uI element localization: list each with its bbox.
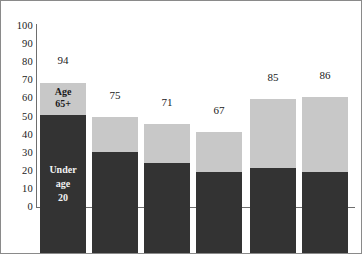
bar-segment-under-age-20-2010 xyxy=(196,172,242,253)
bar-group-2010: 67 xyxy=(196,46,242,253)
bar-segment-under-age-20-2065 xyxy=(302,172,348,253)
bar-segment-age-65-plus-1995 xyxy=(144,124,190,163)
y-tick-label: 70 xyxy=(3,75,33,85)
annotation-under-age-20-line2: age xyxy=(40,178,86,189)
bar-group-1995: 71 xyxy=(144,46,190,253)
y-tick-label: 90 xyxy=(3,39,33,49)
bar-segment-under-age-20-1980 xyxy=(92,152,138,253)
bar-group-2035: 85 xyxy=(250,46,296,253)
annotation-age-65-plus-line1: Age xyxy=(40,86,86,97)
annotation-under-age-20-line3: 20 xyxy=(40,192,86,203)
y-tick-label: 30 xyxy=(3,148,33,158)
bar-group-2065: 86 xyxy=(302,46,348,253)
bar-total-label-1965: 94 xyxy=(40,55,86,66)
bar-segment-under-age-20-1995 xyxy=(144,163,190,253)
y-tick-label: 50 xyxy=(3,112,33,122)
bar-group-1980: 75 xyxy=(92,46,138,253)
y-axis-line xyxy=(36,24,37,208)
bar-total-label-2065: 86 xyxy=(302,70,348,81)
y-axis-tick-labels: 100 90 80 70 60 50 40 30 20 10 0 xyxy=(0,0,33,253)
bar-total-label-1995: 71 xyxy=(144,97,190,108)
bar-total-label-1980: 75 xyxy=(92,90,138,101)
annotation-under-age-20-line1: Under xyxy=(40,164,86,175)
bar-total-label-2035: 85 xyxy=(250,72,296,83)
y-tick-label: 100 xyxy=(3,21,33,31)
y-tick-label: 40 xyxy=(3,130,33,140)
y-tick-label: 10 xyxy=(3,184,33,194)
annotation-age-65-plus-line2: 65+ xyxy=(40,98,86,109)
bar-segment-age-65-plus-2035 xyxy=(250,99,296,168)
bar-segment-under-age-20-2035 xyxy=(250,168,296,253)
bar-segment-age-65-plus-1980 xyxy=(92,117,138,152)
y-tick-label: 60 xyxy=(3,93,33,103)
bar-group-1965: 94 Age 65+ Under age 20 xyxy=(40,46,86,253)
y-tick-label: 0 xyxy=(3,202,33,212)
bar-segment-age-65-plus-2010 xyxy=(196,132,242,172)
bar-total-label-2010: 67 xyxy=(196,105,242,116)
y-tick-label: 20 xyxy=(3,166,33,176)
bar-segment-age-65-plus-2065 xyxy=(302,97,348,172)
y-tick-label: 80 xyxy=(3,57,33,67)
